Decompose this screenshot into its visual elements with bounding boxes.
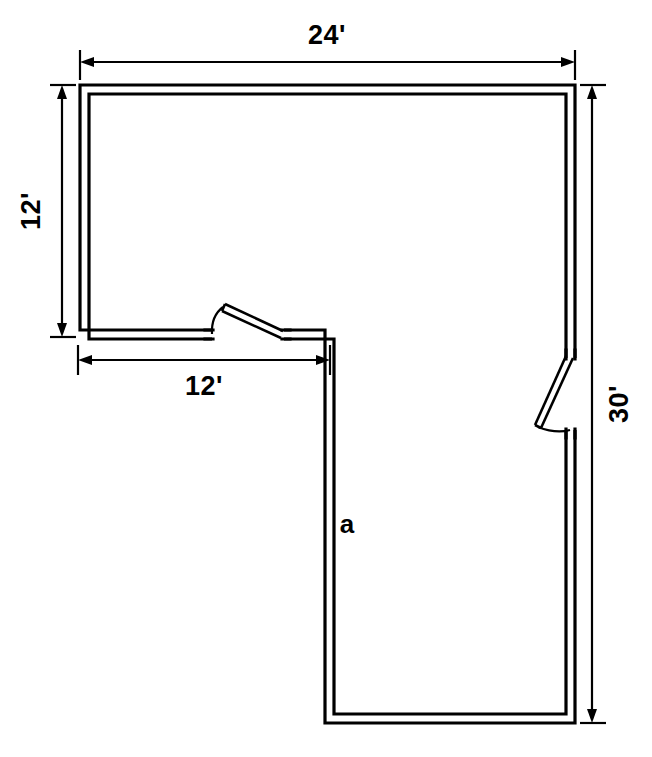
exterior-door-leaf-edge-b [535, 356, 566, 425]
dimension-lower-left-label: 12' [185, 371, 223, 401]
interior-door [205, 304, 290, 344]
dimension-right-arrow-bottom [587, 709, 597, 723]
exterior-door [535, 350, 580, 438]
dimension-lower-left-arrow-right [316, 355, 330, 365]
side-label-a: a [340, 509, 355, 539]
dimension-top: 24' [80, 20, 575, 80]
dimension-left-arrow-top [57, 85, 67, 99]
exterior-door-opening [562, 358, 580, 430]
dimension-right: 30' [580, 85, 634, 723]
dimension-top-label: 24' [308, 20, 346, 50]
dimension-left-arrow-bottom [57, 323, 67, 337]
wall-outline-outer [80, 85, 575, 723]
dimension-left: 12' [16, 85, 76, 337]
dimension-lower-left-arrow-left [78, 355, 92, 365]
dimension-lower-left: 12' [78, 345, 330, 401]
dimension-left-label: 12' [16, 192, 46, 230]
dimension-right-label: 30' [604, 385, 634, 423]
dimension-top-arrow-right [561, 57, 575, 67]
floor-plan-diagram: 24' 12' 12' 30' [0, 0, 652, 757]
dimension-right-arrow-top [587, 85, 597, 99]
unknown-side-label: a [340, 509, 355, 539]
exterior-door-jamb-top [566, 350, 575, 359]
floor-plan-drawing: 24' 12' 12' 30' [0, 0, 652, 757]
wall-outline-inner [89, 94, 566, 714]
dimension-top-arrow-left [80, 57, 94, 67]
